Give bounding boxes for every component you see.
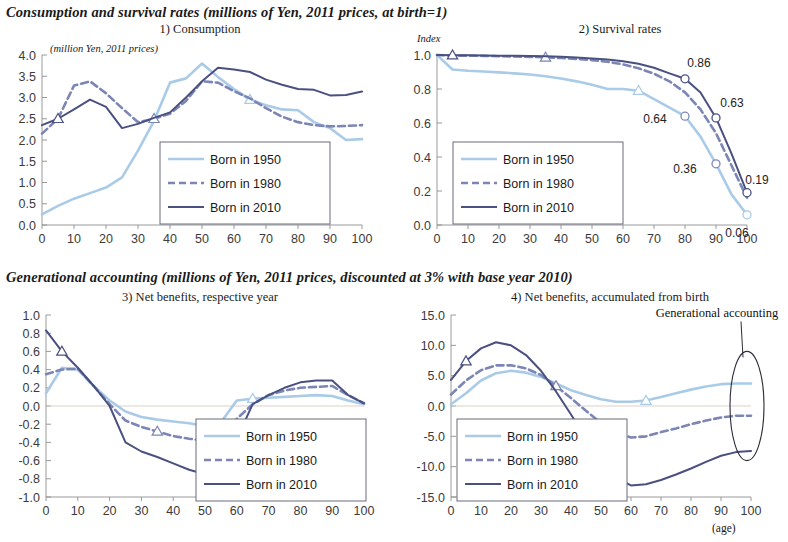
x-axis-tick-label: 30 [134, 504, 148, 518]
x-axis-tick-label: 90 [714, 504, 728, 518]
data-point-marker [681, 112, 689, 120]
x-axis-tick-label: 100 [352, 232, 373, 246]
x-axis-tick-label: 50 [585, 232, 599, 246]
legend-label: Born in 1950 [507, 430, 578, 444]
y-axis-tick-label: 1.0 [23, 309, 40, 323]
y-axis-tick-label: 10.0 [421, 339, 445, 353]
chart-svg-consumption: 0.00.51.01.52.02.53.03.54.00102030405060… [0, 47, 400, 262]
x-axis-tick-label: 40 [163, 232, 177, 246]
y-axis-tick-label: 0.4 [414, 151, 431, 165]
chart-title-net-benefits-accum: 4) Net benefits, accumulated from birth [465, 290, 755, 305]
y-axis-tick-label: 1.0 [19, 176, 36, 190]
x-axis-tick-label: 0 [43, 504, 50, 518]
series-marker-triangle [53, 114, 63, 123]
chart-title-consumption: 1) Consumption [120, 22, 280, 37]
chart-svg-net-benefits-year: -1.0-0.8-0.6-0.4-0.20.00.20.40.60.81.001… [0, 307, 400, 539]
x-axis-tick-label: 50 [198, 504, 212, 518]
y-axis-tick-label: 1.0 [414, 49, 431, 63]
section-heading-generational-accounting: Generational accounting (millions of Yen… [6, 269, 573, 286]
x-axis-tick-label: 60 [624, 504, 638, 518]
chart-legend: Born in 1950Born in 1980Born in 2010 [453, 142, 623, 224]
y-axis-tick-label: -1.0 [18, 491, 40, 505]
legend-label: Born in 1950 [246, 430, 317, 444]
chart-legend: Born in 1950Born in 1980Born in 2010 [160, 142, 330, 224]
legend-label: Born in 2010 [246, 478, 317, 492]
x-axis-tick-label: 60 [230, 504, 244, 518]
section-heading-consumption-survival: Consumption and survival rates (millions… [6, 4, 448, 21]
y-axis-tick-label: 15.0 [421, 309, 445, 323]
x-axis-tick-label: 20 [103, 504, 117, 518]
x-axis-unit-label-age: (age) [712, 522, 736, 534]
legend-label: Born in 1980 [210, 177, 281, 191]
y-axis-tick-label: 0.8 [23, 327, 40, 341]
x-axis-tick-label: 20 [99, 232, 113, 246]
chart-legend: Born in 1950Born in 1980Born in 2010 [196, 419, 366, 501]
data-point-marker [681, 75, 689, 83]
data-point-marker [743, 211, 751, 219]
x-axis-tick-label: 80 [293, 504, 307, 518]
y-axis-tick-label: 0.0 [414, 219, 431, 233]
y-axis-tick-label: 0.0 [428, 400, 445, 414]
data-point-marker [743, 189, 751, 197]
y-axis-tick-label: 0.2 [23, 381, 40, 395]
y-axis-tick-label: 0.4 [23, 363, 40, 377]
x-axis-tick-label: 30 [131, 232, 145, 246]
y-axis-tick-label: 2.0 [19, 134, 36, 148]
y-axis-tick-label: -5.0 [423, 430, 445, 444]
data-point-marker [712, 114, 720, 122]
x-axis-tick-label: 50 [195, 232, 209, 246]
data-point-value-label: 0.06 [725, 226, 749, 240]
chart-title-survival: 2) Survival rates [530, 22, 710, 37]
y-axis-tick-label: -0.6 [18, 454, 40, 468]
y-axis-tick-label: 0.2 [414, 185, 431, 199]
y-axis-tick-label: -0.4 [18, 436, 40, 450]
y-axis-tick-label: 0.5 [19, 197, 36, 211]
x-axis-tick-label: 0 [39, 232, 46, 246]
x-axis-tick-label: 10 [71, 504, 85, 518]
chart-svg-net-benefits-accum: -15.0-10.0-5.00.05.010.015.0010203040506… [395, 307, 788, 539]
data-point-marker [712, 160, 720, 168]
x-axis-tick-label: 70 [262, 504, 276, 518]
y-axis-tick-label: -0.2 [18, 418, 40, 432]
chart-unit-note-survival: Index [417, 33, 440, 44]
legend-label: Born in 1980 [246, 454, 317, 468]
callout-label-generational-accounting: Generational accounting [656, 307, 779, 320]
data-point-value-label: 0.64 [643, 112, 667, 126]
x-axis-tick-label: 10 [461, 232, 475, 246]
chart-panel-consumption: 1) Consumption (million Yen, 2011 prices… [0, 22, 400, 262]
x-axis-tick-label: 80 [684, 504, 698, 518]
x-axis-tick-label: 20 [504, 504, 518, 518]
x-axis-tick-label: 30 [534, 504, 548, 518]
series-line-born-in-1950 [46, 368, 364, 426]
legend-label: Born in 2010 [507, 478, 578, 492]
data-point-value-label: 0.63 [720, 96, 744, 110]
legend-label: Born in 2010 [210, 201, 281, 215]
x-axis-tick-label: 0 [434, 232, 441, 246]
y-axis-tick-label: 0.6 [23, 345, 40, 359]
legend-label: Born in 1980 [507, 454, 578, 468]
x-axis-tick-label: 40 [166, 504, 180, 518]
x-axis-tick-label: 60 [227, 232, 241, 246]
y-axis-tick-label: 5.0 [428, 369, 445, 383]
chart-panel-net-benefits-accum: 4) Net benefits, accumulated from birth … [395, 290, 788, 540]
x-axis-tick-label: 80 [291, 232, 305, 246]
x-axis-tick-label: 90 [325, 504, 339, 518]
data-point-value-label: 0.36 [673, 162, 697, 176]
y-axis-tick-label: -0.8 [18, 472, 40, 486]
x-axis-tick-label: 60 [616, 232, 630, 246]
y-axis-tick-label: 0.8 [414, 83, 431, 97]
y-axis-tick-label: 0.0 [19, 219, 36, 233]
x-axis-tick-label: 50 [594, 504, 608, 518]
x-axis-tick-label: 40 [554, 232, 568, 246]
x-axis-tick-label: 90 [323, 232, 337, 246]
x-axis-tick-label: 90 [709, 232, 723, 246]
y-axis-tick-label: 3.0 [19, 91, 36, 105]
x-axis-tick-label: 10 [474, 504, 488, 518]
y-axis-tick-label: 3.5 [19, 70, 36, 84]
x-axis-tick-label: 0 [448, 504, 455, 518]
y-axis-tick-label: 0.0 [23, 400, 40, 414]
data-point-value-label: 0.86 [687, 56, 711, 70]
data-point-value-label: 0.19 [745, 173, 769, 187]
legend-label: Born in 2010 [503, 201, 574, 215]
x-axis-tick-label: 100 [354, 504, 375, 518]
